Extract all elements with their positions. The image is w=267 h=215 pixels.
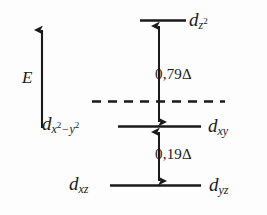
level-label-dx2y2: dx2−y2 (42, 114, 79, 135)
orbital-letter: d (189, 9, 199, 30)
gap-label-upper: 0,79Δ (155, 67, 192, 82)
orbital-letter: d (209, 174, 219, 195)
orbital-subscript: xy (218, 124, 229, 138)
orbital-subscript: xz (79, 182, 89, 196)
orbital-subscript: yz (219, 183, 229, 197)
level-label-dxz: dxz (69, 174, 89, 195)
gap-label-lower: 0,19Δ (155, 147, 192, 162)
level-label-dyz: dyz (209, 175, 229, 196)
orbital-subscript: x2−y2 (52, 122, 80, 136)
orbital-letter: d (69, 173, 79, 194)
orbital-subscript: z2 (199, 18, 208, 32)
energy-axis-label: E (22, 69, 32, 86)
energy-level-diagram: E dz2 dx2−y2 dxy dxz dyz 0,79Δ 0,19Δ (0, 0, 267, 215)
level-label-dz2: dz2 (189, 10, 208, 31)
orbital-letter: d (208, 115, 218, 136)
orbital-letter: d (42, 113, 52, 134)
level-label-dxy: dxy (208, 116, 228, 137)
